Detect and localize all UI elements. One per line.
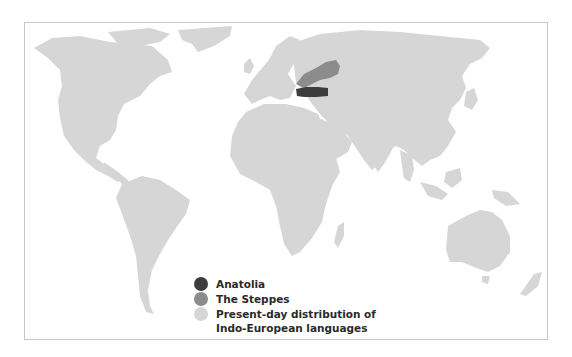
present-day-swatch-icon	[194, 307, 208, 321]
map-legend: Anatolia The Steppes Present-day distrib…	[194, 277, 376, 336]
legend-label: Present-day distribution of Indo-Europea…	[216, 307, 376, 335]
indonesia	[420, 182, 448, 200]
north-america	[34, 36, 172, 182]
anatolia-swatch-icon	[194, 277, 208, 291]
legend-label-line1: Present-day distribution of	[216, 308, 376, 320]
land-masses	[34, 26, 542, 314]
south-america	[116, 176, 190, 314]
japan	[464, 88, 478, 110]
madagascar	[334, 222, 344, 248]
steppes-swatch-icon	[194, 292, 208, 306]
new-guinea	[492, 190, 520, 206]
australia	[446, 210, 510, 272]
anatolia-region	[296, 87, 328, 97]
borneo	[444, 168, 462, 188]
legend-label-line2: Indo-European languages	[216, 322, 368, 334]
legend-item-anatolia: Anatolia	[194, 277, 376, 291]
new-zealand	[520, 272, 542, 296]
greenland	[178, 26, 232, 52]
tasmania	[482, 276, 490, 284]
legend-item-steppes: The Steppes	[194, 292, 376, 306]
legend-label: The Steppes	[216, 292, 290, 306]
legend-item-present-day: Present-day distribution of Indo-Europea…	[194, 307, 376, 335]
britain	[244, 58, 254, 74]
legend-label: Anatolia	[216, 277, 265, 291]
